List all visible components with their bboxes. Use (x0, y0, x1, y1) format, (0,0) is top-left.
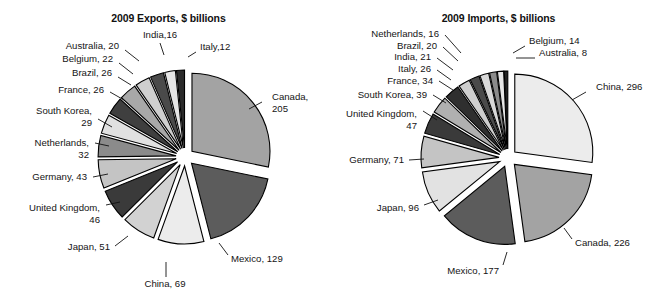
slice-label-line: Japan, 51 (68, 241, 110, 252)
slice-label-line: Netherlands, (35, 137, 89, 148)
slice-label-line: India,16 (143, 29, 177, 40)
slice-label-germany: Germany, 71 (349, 154, 404, 165)
chart-panel-exports: 2009 Exports, $ billionsCanada,205Mexico… (0, 0, 327, 305)
slice-label-line: United Kingdom, (346, 108, 417, 119)
slice-label-china: China, 69 (144, 278, 185, 289)
slice-label-italy: Italy,12 (200, 41, 230, 52)
slice-label-line: Germany, 43 (32, 171, 87, 182)
leader-line-australia (125, 50, 139, 61)
pie-svg-imports: China, 296Canada, 226Mexico, 177Japan, 9… (327, 0, 654, 305)
pie-slice-canada[interactable] (192, 73, 270, 167)
pie-slice-canada[interactable] (514, 164, 591, 241)
slice-label-netherlands: Netherlands, 16 (371, 28, 439, 39)
slice-label-line: Italy,12 (200, 41, 230, 52)
slice-label-line: China, 296 (596, 81, 642, 92)
slice-label-line: 46 (89, 214, 100, 225)
slice-label-line: 29 (81, 117, 92, 128)
slice-label-south-korea: South Korea,29 (36, 105, 92, 128)
slice-label-france: France, 26 (58, 84, 104, 95)
slice-label-line: Belgium, 14 (529, 35, 580, 46)
leader-line-mexico (503, 252, 507, 265)
slice-label-line: China, 69 (144, 278, 185, 289)
slice-label-line: Brazil, 26 (72, 67, 112, 78)
slice-label-line: France, 26 (58, 84, 104, 95)
leader-line-india (437, 58, 453, 70)
slice-label-line: Mexico, 129 (231, 253, 283, 264)
leader-line-india (160, 43, 164, 55)
slice-label-line: Canada, 226 (575, 237, 630, 248)
slice-label-france: France, 34 (387, 75, 434, 86)
slice-label-germany: Germany, 43 (32, 171, 87, 182)
slice-label-line: Canada, (272, 91, 308, 102)
slice-label-united-kingdom: United Kingdom,46 (29, 202, 100, 225)
slice-label-line: Japan, 96 (377, 202, 419, 213)
slice-label-line: Australia, 20 (66, 40, 119, 51)
slice-label-india: India, 21 (394, 51, 431, 62)
slice-label-belgium: Belgium, 14 (529, 35, 580, 46)
slice-label-japan: Japan, 96 (377, 202, 419, 213)
slice-label-united-kingdom: United Kingdom,47 (346, 108, 417, 131)
leader-line-brazil (118, 77, 131, 85)
slice-label-line: 205 (272, 103, 288, 114)
slice-label-line: Italy, 26 (398, 63, 431, 74)
slice-label-line: Germany, 71 (349, 154, 404, 165)
chart-panel-imports: 2009 Imports, $ billionsChina, 296Canada… (327, 0, 654, 305)
pie-chart-pair: 2009 Exports, $ billionsCanada,205Mexico… (0, 0, 654, 305)
leader-line-belgium (513, 46, 525, 53)
leader-line-france (110, 92, 124, 100)
leader-line-mexico (219, 243, 228, 255)
slice-label-line: India, 21 (394, 51, 431, 62)
slice-label-south-korea: South Korea, 39 (358, 89, 427, 100)
slice-label-canada: Canada, 226 (575, 237, 630, 248)
pie-svg-exports: Canada,205Mexico, 129China, 69Japan, 51U… (0, 0, 327, 305)
slice-label-brazil: Brazil, 26 (72, 67, 112, 78)
leader-line-italy (437, 70, 451, 80)
slice-label-japan: Japan, 51 (68, 241, 110, 252)
slice-label-line: Australia, 8 (539, 47, 587, 58)
pie-slice-mexico[interactable] (192, 163, 268, 239)
leader-line-belgium (119, 63, 133, 74)
slice-label-line: 32 (78, 149, 89, 160)
slice-label-line: Brazil, 20 (397, 40, 437, 51)
slice-label-netherlands: Netherlands,32 (35, 137, 89, 160)
leader-line-france (439, 81, 453, 90)
leader-line-canada (564, 228, 572, 239)
slice-label-italy: Italy, 26 (398, 63, 431, 74)
slice-label-line: South Korea, (36, 105, 92, 116)
slice-label-line: 47 (406, 120, 417, 131)
slice-label-line: United Kingdom, (29, 202, 100, 213)
leader-line-japan (115, 236, 128, 246)
slice-label-line: France, 34 (387, 75, 434, 86)
slice-label-belgium: Belgium, 22 (62, 53, 113, 64)
slice-label-canada: Canada,205 (272, 91, 308, 114)
slice-label-mexico: Mexico, 177 (447, 265, 499, 276)
slice-label-china: China, 296 (596, 81, 642, 92)
leader-line-china (572, 92, 586, 100)
slice-label-line: Netherlands, 16 (371, 28, 439, 39)
slice-label-line: Mexico, 177 (447, 265, 499, 276)
slice-label-brazil: Brazil, 20 (397, 40, 437, 51)
slice-label-australia: Australia, 8 (539, 47, 587, 58)
slice-label-australia: Australia, 20 (66, 40, 119, 51)
slice-label-mexico: Mexico, 129 (231, 253, 283, 264)
slice-label-line: South Korea, 39 (358, 89, 427, 100)
slice-label-india: India,16 (143, 29, 177, 40)
pie-slice-china[interactable] (515, 74, 593, 162)
leader-line-netherlands (445, 35, 461, 53)
leader-line-italy (188, 52, 196, 57)
slice-label-line: Belgium, 22 (62, 53, 113, 64)
leader-line-brazil (443, 47, 458, 61)
